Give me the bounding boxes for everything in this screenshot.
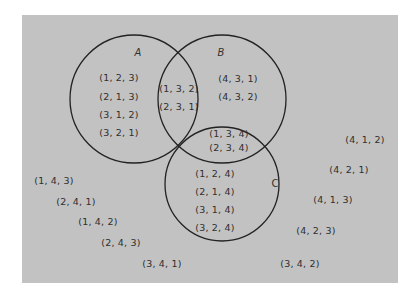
- permutation-b-and-c: (2, 3, 4): [209, 142, 248, 153]
- permutation-c-only: (3, 2, 4): [195, 222, 234, 233]
- permutation-outside: (3, 4, 2): [280, 258, 319, 269]
- permutation-a-and-b: (1, 3, 2): [159, 83, 198, 94]
- permutation-c-only: (2, 1, 4): [195, 186, 234, 197]
- permutation-outside: (4, 1, 2): [345, 134, 384, 145]
- set-label-a: A: [135, 47, 142, 58]
- permutation-outside: (1, 4, 2): [78, 216, 117, 227]
- permutation-c-only: (1, 2, 4): [195, 168, 234, 179]
- permutation-c-only: (3, 1, 4): [195, 204, 234, 215]
- permutation-outside: (2, 4, 3): [101, 237, 140, 248]
- permutation-b-only: (4, 3, 1): [218, 73, 257, 84]
- permutation-a-only: (3, 2, 1): [99, 127, 138, 138]
- permutation-b-only: (4, 3, 2): [218, 91, 257, 102]
- permutation-outside: (1, 4, 3): [34, 175, 73, 186]
- permutation-a-only: (1, 2, 3): [99, 72, 138, 83]
- permutation-outside: (2, 4, 1): [56, 196, 95, 207]
- set-label-b: B: [218, 47, 225, 58]
- permutation-outside: (3, 4, 1): [142, 258, 181, 269]
- permutation-a-only: (3, 1, 2): [99, 109, 138, 120]
- permutation-outside: (4, 2, 3): [296, 225, 335, 236]
- set-label-c: C: [272, 178, 279, 189]
- permutation-a-only: (2, 1, 3): [99, 91, 138, 102]
- permutation-outside: (4, 2, 1): [329, 164, 368, 175]
- permutation-a-and-b: (2, 3, 1): [159, 101, 198, 112]
- venn-circles: [0, 0, 412, 292]
- permutation-b-and-c: (1, 3, 4): [209, 128, 248, 139]
- permutation-outside: (4, 1, 3): [313, 194, 352, 205]
